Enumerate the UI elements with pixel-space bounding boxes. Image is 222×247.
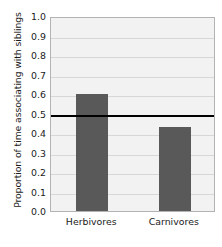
y-tick-label: 0.8 <box>24 51 46 61</box>
x-tick-label: Carnivores <box>133 215 216 229</box>
y-tick-label: 0.3 <box>24 149 46 159</box>
bar <box>159 127 191 211</box>
gridline <box>51 77 214 78</box>
plot-area <box>50 17 215 212</box>
y-tick-label: 0.1 <box>24 188 46 198</box>
y-tick-label: 0.2 <box>24 168 46 178</box>
y-tick-label: 1.0 <box>24 12 46 22</box>
y-tick-label: 0.6 <box>24 90 46 100</box>
gridline <box>51 57 214 58</box>
gridline <box>51 38 214 39</box>
reference-line <box>51 115 214 117</box>
y-tick-label: 0.9 <box>24 32 46 42</box>
bar-chart-figure: Proportion of time associating with sibl… <box>0 0 222 247</box>
y-axis-title: Proportion of time associating with sibl… <box>11 10 25 210</box>
bar <box>76 94 108 211</box>
y-tick-label: 0.0 <box>24 207 46 217</box>
y-axis-tick-labels: 0.00.10.20.30.40.50.60.70.80.91.0 <box>24 17 46 212</box>
x-axis-tick-labels: HerbivoresCarnivores <box>50 215 215 231</box>
x-tick-label: Herbivores <box>50 215 133 229</box>
y-tick-label: 0.4 <box>24 129 46 139</box>
y-tick-label: 0.7 <box>24 71 46 81</box>
y-tick-label: 0.5 <box>24 110 46 120</box>
